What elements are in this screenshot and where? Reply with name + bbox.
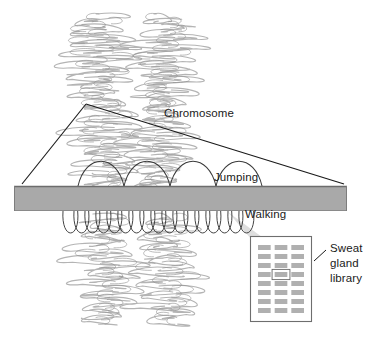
sweat-gland-library-panel: [251, 237, 312, 322]
walking-loop: [63, 211, 78, 233]
chromatin-coil-detail: [135, 213, 200, 324]
label-jumping: Jumping: [214, 170, 258, 185]
chromosome-region-bar: [14, 186, 347, 211]
library-band: [291, 290, 304, 295]
library-band: [258, 299, 271, 304]
label-sweat-gland-library: Sweat gland library: [330, 241, 376, 286]
jumping-arc: [170, 161, 216, 186]
library-band: [258, 245, 271, 250]
walking-loop: [184, 211, 199, 233]
library-pointer-line: [314, 250, 326, 261]
library-band: [258, 263, 271, 268]
chromosome-walking-jumping-figure: Chromosome Jumping Walking Sweat gland l…: [0, 0, 377, 341]
library-label-line-3: library: [330, 271, 376, 286]
walking-loop: [129, 211, 144, 233]
library-label-line-1: Sweat: [330, 241, 376, 256]
walking-loop: [217, 211, 232, 233]
library-band: [291, 299, 304, 304]
library-band: [275, 308, 288, 313]
library-band: [258, 281, 271, 286]
library-band: [275, 299, 288, 304]
figure-canvas: [0, 0, 377, 341]
library-band: [291, 263, 304, 268]
library-band: [291, 272, 304, 277]
library-band: [275, 263, 288, 268]
chromatin-group: [54, 13, 210, 326]
label-chromosome: Chromosome: [164, 106, 234, 121]
library-label-line-2: gland: [330, 256, 376, 271]
library-band: [275, 245, 288, 250]
library-band: [275, 254, 288, 259]
walking-loop: [206, 211, 221, 233]
label-walking: Walking: [245, 207, 286, 222]
library-band: [258, 254, 271, 259]
library-band: [291, 254, 304, 259]
library-band: [291, 245, 304, 250]
library-band-selected: [275, 272, 288, 277]
library-band: [275, 281, 288, 286]
walking-loop: [195, 211, 210, 233]
library-band: [258, 272, 271, 277]
library-band: [258, 290, 271, 295]
library-band: [275, 290, 288, 295]
library-band: [258, 308, 271, 313]
library-band: [291, 281, 304, 286]
library-band: [291, 308, 304, 313]
